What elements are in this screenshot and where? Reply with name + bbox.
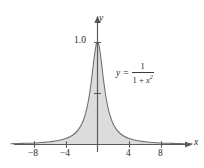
equation-equals-sign: = <box>123 68 128 78</box>
equation-fraction: 1 1 + x2 <box>132 62 154 85</box>
equation-lhs: y <box>116 68 120 78</box>
x-tick-label-8: 8 <box>158 148 163 158</box>
curve-shaded-area <box>11 42 192 145</box>
function-graph-figure: y x 1.0 −8 −4 4 8 y = 1 1 + x2 <box>0 0 204 168</box>
x-axis-label: x <box>194 137 198 147</box>
x-tick-label-minus-8: −8 <box>28 148 38 158</box>
equation-denominator-exponent: 2 <box>150 74 153 80</box>
y-axis-label: y <box>99 13 103 23</box>
equation-fraction-bar <box>132 72 154 73</box>
x-tick-label-minus-4: −4 <box>60 148 70 158</box>
equation-numerator: 1 <box>138 62 146 71</box>
y-tick-label-1.0: 1.0 <box>74 35 86 45</box>
equation-denominator-lead: 1 + <box>133 75 144 85</box>
x-axis-arrowhead <box>185 141 193 147</box>
equation-annotation: y = 1 1 + x2 <box>116 62 154 85</box>
plot-canvas <box>0 0 204 168</box>
equation-denominator: 1 + x2 <box>132 74 154 85</box>
x-tick-label-4: 4 <box>126 148 131 158</box>
